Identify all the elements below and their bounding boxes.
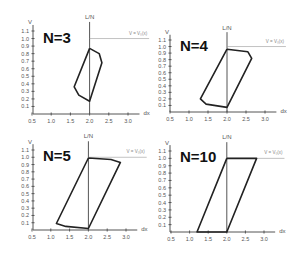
y-tick-label: 0.1 xyxy=(158,222,166,228)
y-tick-label: 0.4 xyxy=(158,200,166,206)
x-tick-label: 1.0 xyxy=(185,116,193,122)
y-tick-label: 0.3 xyxy=(21,205,29,211)
v0-label: V = V₀(x) xyxy=(127,149,146,154)
x-tick-label: 3.0 xyxy=(260,236,268,242)
y-tick-label: 0.9 xyxy=(21,43,29,49)
y-tick-label: 0.2 xyxy=(21,96,29,102)
panel-title: N=5 xyxy=(43,147,71,164)
chart-panel-4: 0.10.20.30.40.50.60.70.80.91.01.10.51.01… xyxy=(158,134,285,242)
y-tick-label: 0.7 xyxy=(158,63,166,69)
ln-label: L/N xyxy=(222,25,231,31)
chart-panel-2: 0.10.20.30.40.50.60.70.80.91.01.10.51.01… xyxy=(158,25,286,122)
y-tick-label: 1.1 xyxy=(21,147,29,153)
x-tick-label: 2.5 xyxy=(103,234,111,240)
y-axis-label: V xyxy=(28,19,32,25)
ln-label: L/N xyxy=(85,14,94,20)
x-tick-label: 2.0 xyxy=(86,118,94,124)
ln-label: L/N xyxy=(222,134,231,140)
x-tick-label: 2.5 xyxy=(242,116,250,122)
v0-label: V = V₀(x) xyxy=(129,31,148,36)
y-tick-label: 0.2 xyxy=(21,212,29,218)
y-tick-label: 0.1 xyxy=(21,103,29,109)
y-tick-label: 0.7 xyxy=(21,58,29,64)
y-tick-label: 0.8 xyxy=(21,169,29,175)
v0-label: V = V₀(x) xyxy=(264,150,283,155)
y-tick-label: 0.2 xyxy=(158,96,166,102)
x-tick-label: 1.5 xyxy=(204,236,212,242)
y-tick-label: 0.8 xyxy=(158,170,166,176)
x-tick-label: 2.5 xyxy=(105,118,113,124)
y-tick-label: 0.8 xyxy=(158,57,166,63)
y-tick-label: 0.7 xyxy=(158,177,166,183)
y-tick-label: 1.1 xyxy=(21,28,29,34)
x-tick-label: 0.5 xyxy=(28,234,36,240)
y-tick-label: 0.9 xyxy=(158,50,166,56)
y-tick-label: 0.1 xyxy=(158,102,166,108)
x-tick-label: 2.5 xyxy=(242,236,250,242)
y-tick-label: 0.6 xyxy=(21,66,29,72)
y-axis-label: V xyxy=(165,29,169,35)
y-tick-label: 0.3 xyxy=(158,207,166,213)
y-tick-label: 1.0 xyxy=(158,44,166,50)
y-tick-label: 0.7 xyxy=(21,176,29,182)
y-tick-label: 0.5 xyxy=(21,73,29,79)
x-tick-label: 2.0 xyxy=(85,234,93,240)
x-tick-label: 1.0 xyxy=(47,118,55,124)
y-tick-label: 0.5 xyxy=(158,192,166,198)
x-tick-label: 0.5 xyxy=(28,118,36,124)
x-tick-label: 2.0 xyxy=(223,116,231,122)
x-tick-label: 3.0 xyxy=(122,234,130,240)
y-tick-label: 0.3 xyxy=(21,88,29,94)
x-tick-label: 0.5 xyxy=(166,116,174,122)
hysteresis-curve xyxy=(74,48,102,101)
x-axis-label: dx xyxy=(141,226,147,232)
y-tick-label: 0.6 xyxy=(21,183,29,189)
y-tick-label: 0.5 xyxy=(21,191,29,197)
x-axis-label: dx xyxy=(280,108,286,114)
y-tick-label: 0.5 xyxy=(158,76,166,82)
v0-label: V = V₀(x) xyxy=(266,39,285,44)
x-tick-label: 1.5 xyxy=(66,234,74,240)
y-axis-label: V xyxy=(165,140,169,146)
x-tick-label: 0.5 xyxy=(167,236,175,242)
x-tick-label: 1.0 xyxy=(47,234,55,240)
chart-panel-1: 0.10.20.30.40.50.60.70.80.91.01.10.51.01… xyxy=(21,14,150,124)
ln-label: L/N xyxy=(84,133,93,139)
x-axis-label: dx xyxy=(279,228,285,234)
y-tick-label: 0.4 xyxy=(158,83,166,89)
y-tick-label: 1.0 xyxy=(158,155,166,161)
x-axis-label: dx xyxy=(144,110,150,116)
figure: 0.10.20.30.40.50.60.70.80.91.01.10.51.01… xyxy=(0,0,301,259)
panel-title: N=3 xyxy=(43,29,71,46)
y-tick-label: 0.8 xyxy=(21,51,29,57)
x-tick-label: 1.0 xyxy=(186,236,194,242)
y-tick-label: 0.6 xyxy=(158,185,166,191)
y-tick-label: 1.1 xyxy=(158,148,166,154)
x-tick-label: 1.5 xyxy=(67,118,75,124)
y-tick-label: 0.1 xyxy=(21,220,29,226)
x-tick-label: 1.5 xyxy=(204,116,212,122)
y-tick-label: 0.4 xyxy=(21,198,29,204)
x-tick-label: 3.0 xyxy=(124,118,132,124)
x-tick-label: 3.0 xyxy=(261,116,269,122)
y-tick-label: 0.4 xyxy=(21,81,29,87)
y-axis-label: V xyxy=(28,139,32,145)
hysteresis-curve xyxy=(200,49,251,107)
y-tick-label: 0.9 xyxy=(21,162,29,168)
y-tick-label: 1.0 xyxy=(21,154,29,160)
chart-panel-3: 0.10.20.30.40.50.60.70.80.91.01.10.51.01… xyxy=(21,133,147,240)
panel-title: N=4 xyxy=(180,37,209,54)
x-tick-label: 2.0 xyxy=(223,236,231,242)
y-tick-label: 0.9 xyxy=(158,163,166,169)
y-tick-label: 0.6 xyxy=(158,70,166,76)
panel-title: N=10 xyxy=(180,148,216,165)
y-tick-label: 0.2 xyxy=(158,214,166,220)
y-tick-label: 1.1 xyxy=(158,37,166,43)
y-tick-label: 1.0 xyxy=(21,36,29,42)
y-tick-label: 0.3 xyxy=(158,89,166,95)
